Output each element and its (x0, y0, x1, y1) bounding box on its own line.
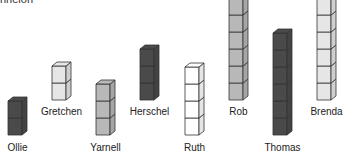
cube-stacks-diagram (0, 0, 352, 158)
cube-stack-yarnell (96, 80, 115, 135)
cube-stack-gretchen (52, 62, 71, 100)
cube-stack-thomas (273, 29, 292, 135)
cube-stack-ollie (8, 97, 27, 135)
stack-label: Thomas (264, 142, 300, 153)
stack-label: Yarnell (90, 142, 120, 153)
stack-label: Brenda (310, 106, 342, 117)
stack-label: Rob (229, 106, 247, 117)
cube-stack-brenda (317, 0, 336, 100)
cube-stack-herschel (140, 45, 159, 100)
cube-stack-ruth (185, 63, 204, 135)
cube-stack-rob (229, 0, 248, 100)
stack-label: Ollie (7, 142, 27, 153)
stack-label: Ruth (184, 142, 205, 153)
stack-label: Herschel (130, 106, 169, 117)
stack-label: Gretchen (41, 106, 82, 117)
